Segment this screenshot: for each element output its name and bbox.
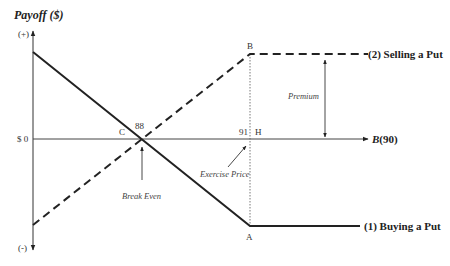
legend-buying-put: (1) Buying a Put (364, 220, 441, 233)
x-tick-91: 91 (239, 127, 248, 137)
exercise-price-arrow (228, 146, 246, 167)
premium-annotation: Premium (287, 91, 319, 101)
y-label-negative: (-) (18, 243, 27, 253)
payoff-chart: Payoff ($) (+) $ 0 (-) B(90) (1) Buying … (0, 0, 450, 266)
y-axis-title: Payoff ($) (14, 8, 63, 22)
point-c-label: C (119, 127, 125, 137)
break-even-annotation: Break Even (122, 191, 161, 201)
legend-selling-put: (2) Selling a Put (368, 48, 443, 61)
y-label-zero: $ 0 (17, 134, 29, 144)
exercise-price-annotation: Exercise Price (199, 169, 250, 179)
point-b-label: B (247, 41, 253, 51)
x-axis-label: B(90) (371, 133, 398, 146)
point-h-label: H (255, 127, 262, 137)
y-label-positive: (+) (18, 29, 29, 39)
point-a-label: A (246, 232, 253, 242)
x-tick-88: 88 (135, 121, 145, 131)
